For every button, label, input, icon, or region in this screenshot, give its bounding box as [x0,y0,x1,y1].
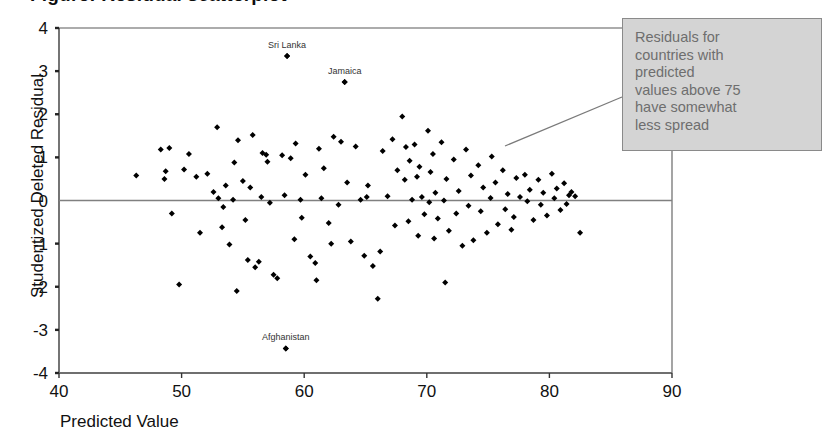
scatter-point [312,260,318,266]
scatter-point [231,160,237,166]
scatter-point [463,147,469,153]
scatter-point [326,220,332,226]
scatter-point [282,192,288,198]
scatter-point [193,174,199,180]
scatter-point [468,172,474,178]
scatter-point [402,177,408,183]
scatter-point [364,194,370,200]
scatter-point [247,185,253,191]
scatter-point [484,230,490,236]
scatter-point [264,159,270,165]
scatter-point [279,152,285,158]
scatter-point [564,201,570,207]
scatter-point [161,176,167,182]
scatter-point [392,223,398,229]
scatter-point [245,257,251,263]
x-axis-ticks: 405060708090 [50,373,682,401]
y-tick-label: -4 [33,364,48,383]
scatter-point [394,167,400,173]
scatter-point [331,134,337,140]
scatter-point [453,210,459,216]
scatter-point [321,165,327,171]
scatter-point [557,207,563,213]
scatter-point [577,230,583,236]
scatter-point [439,139,445,145]
scatter-point [508,227,514,233]
scatter-point [235,137,241,143]
point-label: Sri Lanka [268,40,306,50]
scatter-point [133,172,139,178]
scatter-point [430,151,436,157]
scatter-point [186,151,192,157]
scatter-point [361,253,367,259]
scatter-point [380,148,386,154]
scatter-point [370,263,376,269]
scatter-point [412,141,418,147]
y-tick-label: 2 [39,105,48,124]
scatter-point [210,189,216,195]
scatter-point [353,144,359,150]
scatter-point [375,296,381,302]
scatter-point [163,168,169,174]
scatter-point [513,175,519,181]
scatter-point [489,154,495,160]
scatter-point [549,171,555,177]
scatter-point [407,158,413,164]
callout-box: Residuals for countries with predicted v… [622,18,822,151]
y-tick-label: 3 [39,62,48,81]
scatter-point [500,167,506,173]
scatter-point [328,241,334,247]
callout-line: Residuals for [635,29,821,47]
scatter-point [478,208,484,214]
scatter-point [427,169,433,175]
scatter-point [517,194,523,200]
scatter-point [377,248,383,254]
scatter-point [459,243,465,249]
scatter-point [252,264,258,270]
scatter-point [358,197,364,203]
scatter-point [409,197,415,203]
scatter-point [336,202,342,208]
scatter-point [258,194,264,200]
scatter-point [313,277,319,283]
x-tick-label: 90 [663,382,682,401]
scatter-point [415,233,421,239]
scatter-point [530,217,536,223]
scatter-point [544,213,550,219]
scatter-point [226,241,232,247]
scatter-point [166,145,172,151]
scatter-point [554,185,560,191]
y-axis-ticks: 43210-1-2-3-4 [33,19,59,383]
scatter-point [511,214,517,220]
scatter-point [538,202,544,208]
scatter-point [451,157,457,163]
scatter-point [223,182,229,188]
scatter-point [158,147,164,153]
scatter-point [307,254,313,260]
scatter-point [234,288,240,294]
scatter-point [561,180,567,186]
callout-line: less spread [635,117,821,135]
scatter-point [425,128,431,134]
scatter-point [348,238,354,244]
scatter-point [522,172,528,178]
callout-line: values above 75 [635,82,821,100]
scatter-point-labeled [342,79,348,85]
scatter-point [214,124,220,130]
point-label: Afghanistan [262,332,310,342]
scatter-point [399,113,405,119]
scatter-point [456,188,462,194]
x-tick-label: 40 [50,382,69,401]
scatter-point [441,198,447,204]
scatter-point [505,191,511,197]
scatter-point [181,166,187,172]
y-tick-label: -2 [33,278,48,297]
scatter-point [220,204,226,210]
scatter-point [432,190,438,196]
scatter-point [256,259,262,265]
callout-line: have somewhat [635,99,821,117]
scatter-point [405,218,411,224]
scatter-point [389,136,395,142]
data-points [133,53,583,351]
